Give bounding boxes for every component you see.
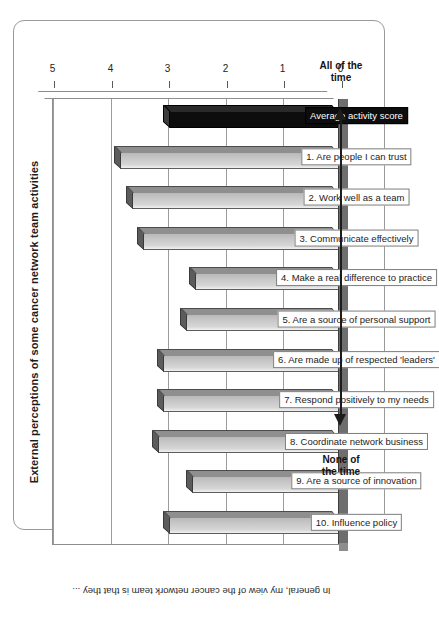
scale-low-label: None of the time [299,454,383,478]
chart-title: External perceptions of some cancer netw… [28,87,40,557]
category-label-1: 10. Influence policy [310,514,401,531]
scale-high-line2: time [331,72,352,83]
scale-arrow-shaft [340,120,342,414]
arrow-down-icon [334,414,346,426]
scale-high-line1: All of the [320,60,363,71]
scale-low-line2: the time [322,466,360,477]
scale-low-line1: None of [322,454,359,465]
chart-floor-cap [339,543,348,551]
arrow-up-icon [334,108,346,120]
category-label-box: 10. Influence policy [348,509,365,535]
chart-back-wall-edge [37,91,333,99]
scale-high-label: All of the time [299,60,383,84]
scale-annotation: All of the time None of the time [311,60,371,480]
footer-caption: In general, my view of the cancer networ… [0,586,403,597]
